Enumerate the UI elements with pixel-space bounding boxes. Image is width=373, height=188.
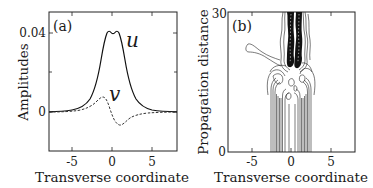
panel-a-ytick-label: 0.04 — [19, 26, 46, 40]
dense-filament-right — [294, 12, 302, 68]
panel-a: -5 0 5 0 0.04 Transverse coordinate Ampl… — [15, 12, 189, 185]
dense-filaments — [287, 12, 302, 68]
panel-b-label: (b) — [232, 18, 252, 34]
panel-b-ytick-label: 0 — [218, 145, 226, 159]
panel-b: -5 0 5 0 30 Transverse coordinate Propag… — [195, 7, 368, 185]
panel-a-xtick-label: 0 — [108, 155, 116, 169]
panel-b-xtick-label: -5 — [246, 155, 258, 169]
panel-b-y-axis-label: Propagation distance — [195, 9, 211, 155]
panel-a-ytick-label: 0 — [38, 105, 46, 119]
stationary-stripes — [271, 78, 311, 152]
panel-a-y-axis-label: Amplitudes — [15, 43, 31, 122]
panel-b-ytick-label: 30 — [212, 7, 227, 21]
panel-b-xtick-label: 0 — [287, 155, 295, 169]
panel-b-x-axis-label: Transverse coordinate — [214, 169, 368, 185]
panel-a-xtick-label: -5 — [66, 155, 78, 169]
side-lobe-loop — [246, 44, 281, 66]
v-curve-label: v — [109, 82, 121, 106]
u-curve-label: u — [126, 28, 139, 52]
panel-b-xtick-label: 5 — [327, 155, 335, 169]
panel-a-xtick-label: 5 — [148, 155, 156, 169]
panel-a-label: (a) — [53, 18, 72, 34]
panel-a-x-axis-label: Transverse coordinate — [35, 169, 189, 185]
contour-plot — [246, 12, 315, 152]
figure: -5 0 5 0 0.04 Transverse coordinate Ampl… — [0, 0, 373, 188]
